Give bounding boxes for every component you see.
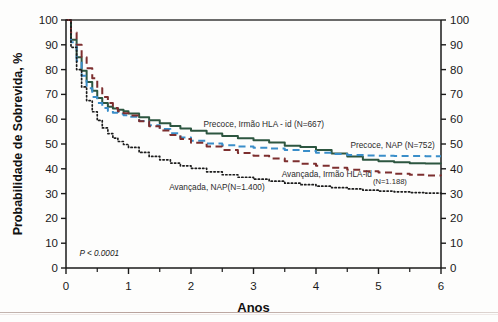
- footer-rule: [0, 312, 498, 313]
- series-label-suffix-2: (N=1.188): [373, 177, 407, 186]
- series-label-2: Avançada, Irmão HLA-id: [282, 169, 373, 179]
- series-curve-2: [66, 20, 441, 176]
- y-tick-label-right: 10: [450, 237, 463, 249]
- y-tick-label-right: 80: [450, 64, 463, 76]
- figure-container: 0010102020303040405050606070708080909010…: [0, 0, 498, 322]
- y-tick-label-left: 40: [45, 163, 58, 175]
- survival-chart: 0010102020303040405050606070708080909010…: [0, 0, 498, 322]
- p-value-annotation: P < 0.0001: [80, 249, 120, 258]
- y-tick-label-left: 30: [45, 188, 58, 200]
- footer-rule-secondary: [0, 314, 498, 315]
- y-tick-label-right: 100: [450, 14, 469, 26]
- y-tick-label-left: 90: [45, 39, 58, 51]
- y-tick-label-right: 40: [450, 163, 463, 175]
- series-label-0: Precoce, Irmão HLA - id (N=667): [204, 119, 325, 129]
- x-tick-label: 2: [188, 280, 194, 292]
- y-tick-label-left: 60: [45, 113, 58, 125]
- y-tick-label-right: 20: [450, 212, 463, 224]
- y-tick-label-right: 60: [450, 113, 463, 125]
- x-tick-label: 5: [375, 280, 381, 292]
- y-tick-label-left: 80: [45, 64, 58, 76]
- series-curve-1: [66, 20, 441, 156]
- y-tick-label-left: 20: [45, 212, 58, 224]
- y-tick-label-right: 70: [450, 88, 463, 100]
- y-tick-label-left: 50: [45, 138, 58, 150]
- y-tick-label-left: 0: [52, 262, 58, 274]
- x-tick-label: 3: [250, 280, 256, 292]
- y-axis-title: Probabilidade de Sobrevida, %: [11, 53, 25, 236]
- series-label-1: Precoce, NAP (N=752): [350, 140, 435, 150]
- x-tick-label: 0: [63, 280, 69, 292]
- x-tick-label: 4: [313, 280, 320, 292]
- y-tick-label-left: 10: [45, 237, 58, 249]
- y-tick-label-right: 0: [450, 262, 456, 274]
- y-tick-label-right: 90: [450, 39, 463, 51]
- series-label-3: Avançada, NAP(N=1.400): [169, 182, 265, 192]
- x-tick-label: 6: [438, 280, 444, 292]
- y-tick-label-right: 50: [450, 138, 463, 150]
- y-tick-label-right: 30: [450, 188, 463, 200]
- series-curve-3: [66, 20, 441, 194]
- x-tick-label: 1: [125, 280, 131, 292]
- y-tick-label-left: 100: [39, 14, 58, 26]
- y-tick-label-left: 70: [45, 88, 58, 100]
